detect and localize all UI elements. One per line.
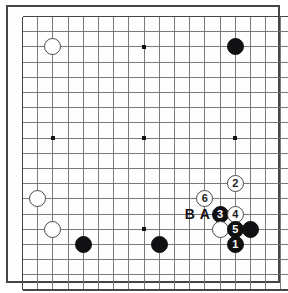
black-stone-move-1[interactable]: 1 [227,236,244,253]
star-point [51,136,55,140]
black-stone-right-edge[interactable] [242,221,259,238]
black-stone-bottom-left[interactable] [75,236,92,253]
white-stone-move-2[interactable]: 2 [227,175,244,192]
black-stone-bottom-center[interactable] [151,236,168,253]
star-point [142,45,146,49]
go-board-container: BA 263451 [0,0,288,293]
star-point [142,227,146,231]
marker-letter-a[interactable]: A [197,206,213,222]
star-point [233,136,237,140]
star-point [142,136,146,140]
marker-letter-b[interactable]: B [182,206,198,222]
